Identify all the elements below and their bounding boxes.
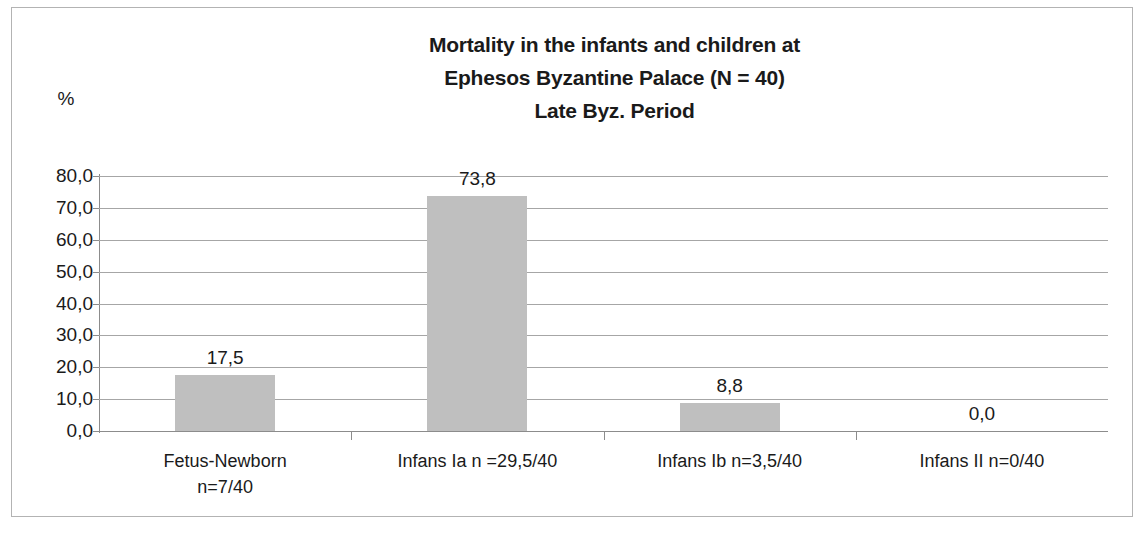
bar[interactable]	[175, 375, 275, 431]
y-axis-tick-label: 70,0	[23, 197, 93, 219]
bar-value-label: 8,8	[604, 375, 856, 397]
y-axis-tick-mark	[93, 176, 99, 177]
bar[interactable]	[680, 403, 780, 431]
x-axis-category-label-line: n=7/40	[99, 474, 351, 500]
category-separator-tick	[351, 431, 352, 440]
chart-title-line-3: Late Byz. Period	[110, 94, 1119, 127]
y-axis-tick-label: 30,0	[23, 324, 93, 346]
x-axis-category-label: Infans II n=0/40	[856, 448, 1108, 474]
y-axis-tick-label: 60,0	[23, 229, 93, 251]
bar[interactable]	[427, 196, 527, 431]
y-axis-tick-label: 50,0	[23, 261, 93, 283]
gridline	[99, 335, 1108, 336]
bar-value-label: 73,8	[351, 168, 603, 190]
chart-figure: Mortality in the infants and children at…	[11, 7, 1133, 517]
x-axis-category-label-line: Infans II n=0/40	[856, 448, 1108, 474]
chart-title-line-2: Ephesos Byzantine Palace (N = 40)	[110, 61, 1119, 94]
y-axis-tick-mark	[93, 272, 99, 273]
y-axis-tick-label: 10,0	[23, 388, 93, 410]
x-axis-category-label: Fetus-Newbornn=7/40	[99, 448, 351, 500]
gridline	[99, 272, 1108, 273]
gridline	[99, 304, 1108, 305]
y-axis-tick-mark	[93, 399, 99, 400]
y-axis-tick-label: 80,0	[23, 165, 93, 187]
y-axis-tick-mark	[93, 335, 99, 336]
category-separator-tick	[856, 431, 857, 440]
x-axis-category-label: Infans Ib n=3,5/40	[604, 448, 856, 474]
y-axis-tick-label: 40,0	[23, 293, 93, 315]
y-axis-tick-mark	[93, 304, 99, 305]
y-axis-tick-mark	[93, 240, 99, 241]
bar-value-label: 0,0	[856, 403, 1108, 425]
plot-area: 80,070,060,050,040,030,020,010,00,0 17,5…	[99, 176, 1108, 431]
gridline	[99, 240, 1108, 241]
x-axis-category-label-line: Fetus-Newborn	[99, 448, 351, 474]
y-axis-tick-label: 20,0	[23, 356, 93, 378]
x-axis-category-label-line: Infans Ia n =29,5/40	[351, 448, 603, 474]
gridline	[99, 208, 1108, 209]
y-axis-tick-mark	[93, 431, 99, 432]
gridline	[99, 176, 1108, 177]
x-axis-category-label: Infans Ia n =29,5/40	[351, 448, 603, 474]
chart-title-line-1: Mortality in the infants and children at	[110, 28, 1119, 61]
y-axis-tick-mark	[93, 208, 99, 209]
y-axis-unit-label: %	[42, 88, 90, 110]
x-axis-category-label-line: Infans Ib n=3,5/40	[604, 448, 856, 474]
y-axis-tick-label: 0,0	[23, 420, 93, 442]
category-separator-tick	[604, 431, 605, 440]
bar-value-label: 17,5	[99, 347, 351, 369]
chart-title: Mortality in the infants and children at…	[110, 28, 1119, 127]
